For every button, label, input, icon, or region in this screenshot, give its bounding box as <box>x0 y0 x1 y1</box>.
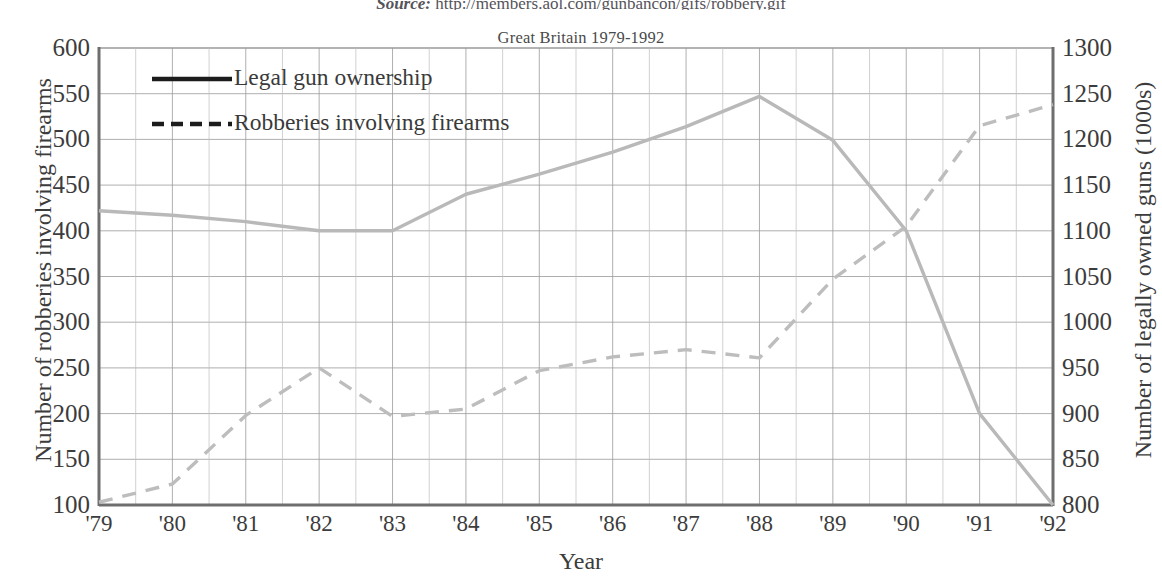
y-tick-right-1250: 1250 <box>1062 81 1142 106</box>
x-tick-79: '79 <box>59 512 139 535</box>
x-tick-88: '88 <box>719 512 799 535</box>
x-tick-81: '81 <box>206 512 286 535</box>
y-tick-right-1300: 1300 <box>1062 35 1142 60</box>
x-tick-80: '80 <box>132 512 212 535</box>
y-tick-left-150: 150 <box>18 446 90 471</box>
legend-label-2: Robberies involving firearms <box>234 109 509 136</box>
x-tick-90: '90 <box>866 512 946 535</box>
x-tick-89: '89 <box>793 512 873 535</box>
x-tick-86: '86 <box>573 512 653 535</box>
y-tick-right-1200: 1200 <box>1062 126 1142 151</box>
y-tick-right-850: 850 <box>1062 446 1142 471</box>
x-tick-82: '82 <box>279 512 359 535</box>
y-tick-left-300: 300 <box>18 309 90 334</box>
x-tick-84: '84 <box>426 512 506 535</box>
y-tick-left-200: 200 <box>18 401 90 426</box>
y-tick-right-1050: 1050 <box>1062 264 1142 289</box>
x-axis-title: Year <box>0 548 1162 575</box>
x-tick-91: '91 <box>940 512 1020 535</box>
x-tick-85: '85 <box>499 512 579 535</box>
source-url: http://members.aol.com/gunbancon/gifs/ro… <box>435 0 786 10</box>
y-tick-left-450: 450 <box>18 172 90 197</box>
y-tick-right-950: 950 <box>1062 355 1142 380</box>
chart-title: Great Britain 1979-1992 <box>0 28 1162 48</box>
legend-label-1: Legal gun ownership <box>234 64 432 91</box>
y-tick-left-250: 250 <box>18 355 90 380</box>
y-tick-right-1100: 1100 <box>1062 218 1142 243</box>
chart-figure: Source: http://members.aol.com/gunbancon… <box>0 0 1162 580</box>
y-tick-left-600: 600 <box>18 35 90 60</box>
legend-keys <box>152 79 232 124</box>
y-tick-left-400: 400 <box>18 218 90 243</box>
source-label: Source: <box>376 0 431 10</box>
source-caption: Source: http://members.aol.com/gunbancon… <box>0 0 1162 10</box>
y-tick-left-350: 350 <box>18 264 90 289</box>
x-tick-87: '87 <box>646 512 726 535</box>
x-tick-83: '83 <box>353 512 433 535</box>
x-tick-92: '92 <box>1013 512 1093 535</box>
plot-area <box>0 0 1162 580</box>
y-tick-right-1000: 1000 <box>1062 309 1142 334</box>
y-tick-right-900: 900 <box>1062 401 1142 426</box>
y-tick-left-550: 550 <box>18 81 90 106</box>
y-tick-right-1150: 1150 <box>1062 172 1142 197</box>
y-tick-left-500: 500 <box>18 126 90 151</box>
